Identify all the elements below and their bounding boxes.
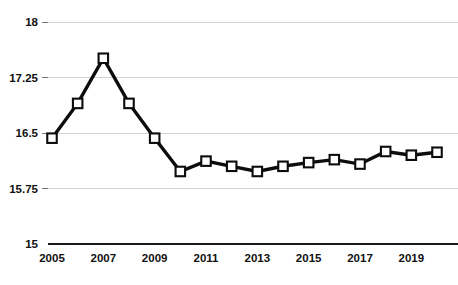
data-point-marker (176, 167, 186, 177)
y-tick-label: 15.75 (9, 183, 38, 195)
x-tick-label: 2015 (296, 252, 322, 264)
gridlines-group (48, 22, 458, 244)
data-point-marker (150, 133, 160, 143)
data-point-marker (432, 147, 442, 157)
y-tick-label: 15 (25, 238, 38, 250)
data-point-marker (407, 150, 417, 160)
data-point-marker (201, 156, 211, 166)
data-point-marker (355, 159, 365, 169)
data-point-marker (47, 133, 57, 143)
data-point-marker (330, 155, 340, 165)
x-tick-label: 2017 (347, 252, 373, 264)
chart-canvas: 1515.7516.517.2518 200520072009201120132… (0, 0, 458, 285)
data-point-marker (253, 167, 263, 177)
x-tick-label: 2007 (91, 252, 117, 264)
x-tick-label: 2009 (142, 252, 168, 264)
data-markers-group (47, 54, 442, 177)
x-axis-tick-labels: 20052007200920112013201520172019 (39, 252, 424, 264)
y-axis-tick-labels: 1515.7516.517.2518 (9, 16, 38, 250)
data-point-marker (304, 158, 314, 168)
y-tick-label: 18 (25, 16, 38, 28)
data-point-marker (278, 162, 288, 172)
x-tick-label: 2013 (245, 252, 271, 264)
data-point-marker (124, 99, 134, 109)
data-point-marker (73, 99, 83, 109)
x-tick-label: 2019 (399, 252, 425, 264)
y-tick-marks-group (42, 22, 48, 189)
data-point-marker (227, 162, 237, 172)
data-series-group (52, 58, 437, 171)
y-tick-label: 16.5 (16, 127, 39, 139)
data-point-marker (381, 147, 391, 157)
y-tick-label: 17.25 (9, 72, 38, 84)
x-tick-label: 2005 (39, 252, 65, 264)
x-tick-label: 2011 (194, 252, 220, 264)
series-line (52, 58, 437, 171)
data-point-marker (99, 54, 109, 64)
line-chart: · · 1515.7516.517.2518 20052007200920112… (0, 0, 458, 285)
